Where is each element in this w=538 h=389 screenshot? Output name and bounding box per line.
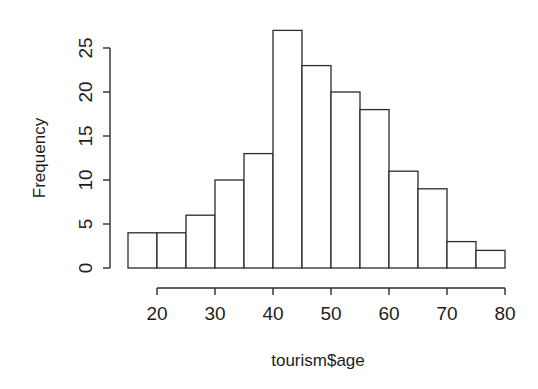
y-tick-label-25: 25	[75, 37, 96, 58]
histogram-plot: 0 5 10 15 20 25 Frequency	[0, 0, 538, 389]
bar-15-20	[128, 233, 157, 268]
y-tick-label-15: 15	[75, 125, 96, 146]
x-tick-label-20: 20	[146, 303, 167, 324]
y-tick-label-10: 10	[75, 169, 96, 190]
x-tick-label-30: 30	[204, 303, 225, 324]
y-tick-label-0: 0	[75, 263, 96, 274]
x-tick-label-40: 40	[262, 303, 283, 324]
y-axis-title: Frequency	[30, 117, 49, 198]
bar-30-35	[215, 180, 244, 268]
bar-75-80	[476, 250, 505, 268]
x-tick-label-80: 80	[494, 303, 515, 324]
x-tick-label-50: 50	[320, 303, 341, 324]
y-tick-label-20: 20	[75, 81, 96, 102]
bar-55-60	[360, 110, 389, 268]
x-tick-label-70: 70	[436, 303, 457, 324]
x-axis-title: tourism$age	[271, 351, 365, 370]
histogram-svg: 0 5 10 15 20 25 Frequency	[0, 0, 538, 389]
x-tick-label-60: 60	[378, 303, 399, 324]
bar-65-70	[418, 189, 447, 268]
bar-35-40	[244, 154, 273, 268]
bar-25-30	[186, 215, 215, 268]
bar-60-65	[389, 171, 418, 268]
bar-20-25	[157, 233, 186, 268]
bar-40-45	[273, 30, 302, 268]
bar-50-55	[331, 92, 360, 268]
bar-70-75	[447, 242, 476, 268]
bar-45-50	[302, 66, 331, 268]
y-tick-label-5: 5	[75, 219, 96, 230]
